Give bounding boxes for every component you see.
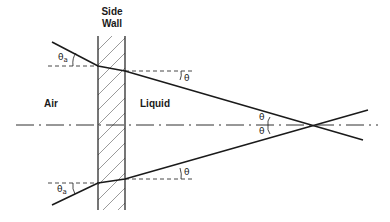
theta-a-lower-label: θa [57, 184, 67, 196]
side-wall-hatching [88, 20, 128, 222]
side-wall-label: Side Wall [97, 6, 127, 30]
theta-center-upper-arc [268, 117, 270, 125]
lower-ray [52, 110, 368, 205]
air-label: Air [44, 98, 58, 109]
liquid-label: Liquid [140, 98, 170, 109]
theta-a-lower-arc [73, 183, 75, 194]
theta-center-lower-label: θ [259, 126, 265, 136]
theta-lower-label: θ [184, 167, 190, 177]
side-wall-label-line2: Wall [97, 18, 127, 30]
side-wall-label-line1: Side [97, 6, 127, 18]
theta-a-upper-label: θa [58, 52, 68, 64]
theta-upper-arc [180, 71, 181, 80]
theta-center-upper-label: θ [259, 112, 265, 122]
theta-lower-arc [180, 168, 181, 179]
theta-center-lower-arc [268, 125, 270, 134]
theta-upper-label: θ [184, 73, 190, 83]
